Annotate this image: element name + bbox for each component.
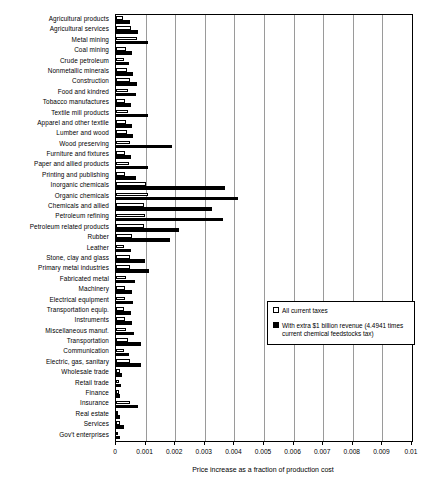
bar-dark	[116, 186, 225, 190]
bar-dark	[116, 249, 131, 253]
x-tick-label: 0.007	[314, 448, 331, 455]
x-tick-mark	[322, 441, 323, 445]
bar-group	[116, 410, 412, 420]
bar-group	[116, 160, 412, 170]
bar-group	[116, 212, 412, 222]
bar-dark	[116, 269, 149, 273]
bar-group	[116, 233, 412, 243]
x-axis-title: Price increase as a fraction of producti…	[115, 466, 411, 473]
bar-group	[116, 140, 412, 150]
category-label: Wholesale trade	[0, 367, 112, 377]
bar-dark	[116, 114, 148, 118]
bar-dark	[116, 363, 141, 367]
bar-group	[116, 275, 412, 285]
bar-dark	[116, 207, 212, 211]
x-tick-label: 0.005	[255, 448, 272, 455]
category-label: Tobacco manufactures	[0, 97, 112, 107]
category-label: Wood preserving	[0, 139, 112, 149]
x-tick-mark	[263, 441, 264, 445]
bar-group	[116, 244, 412, 254]
bar-dark	[116, 103, 131, 107]
category-label: Construction	[0, 76, 112, 86]
legend-label: All current taxes	[282, 307, 409, 316]
category-label: Furniture and fixtures	[0, 149, 112, 159]
category-label: Agricultural services	[0, 24, 112, 34]
bar-dark	[116, 82, 137, 86]
category-label: Coal mining	[0, 45, 112, 55]
bar-group	[116, 202, 412, 212]
category-label: Metal mining	[0, 35, 112, 45]
bar-dark	[116, 353, 129, 357]
bar-dark	[116, 238, 170, 242]
category-label: Instruments	[0, 315, 112, 325]
bar-dark	[116, 405, 138, 409]
x-tick-label: 0.003	[196, 448, 213, 455]
category-label: Retail trade	[0, 378, 112, 388]
bar-dark	[116, 301, 133, 305]
bar-group	[116, 399, 412, 409]
category-label: Petroleum related products	[0, 222, 112, 232]
category-label: Transportation equip.	[0, 305, 112, 315]
x-tick-label: 0.002	[166, 448, 183, 455]
x-tick-mark	[204, 441, 205, 445]
category-label: Agricultural products	[0, 14, 112, 24]
category-label: Leather	[0, 243, 112, 253]
category-label: Organic chemicals	[0, 191, 112, 201]
x-tick-mark	[381, 441, 382, 445]
bar-group	[116, 431, 412, 441]
legend-entry: All current taxes	[273, 307, 409, 316]
bar-group	[116, 358, 412, 368]
category-label: Crude petroleum	[0, 56, 112, 66]
bar-group	[116, 15, 412, 25]
bar-dark	[116, 41, 148, 45]
category-label: Electric, gas, sanitary	[0, 357, 112, 367]
bar-group	[116, 285, 412, 295]
bar-group	[116, 171, 412, 181]
x-tick-mark	[174, 441, 175, 445]
bar-dark	[116, 72, 133, 76]
bar-dark	[116, 62, 129, 66]
bar-group	[116, 223, 412, 233]
category-label: Food and kindred	[0, 87, 112, 97]
bar-group	[116, 379, 412, 389]
legend-swatch-light	[273, 307, 279, 313]
bar-dark	[116, 425, 124, 429]
bar-dark	[116, 384, 121, 388]
category-label: Services	[0, 419, 112, 429]
bar-group	[116, 46, 412, 56]
bar-dark	[116, 321, 132, 325]
x-tick-label: 0.001	[136, 448, 153, 455]
legend-entry: With extra $1 billion revenue (4.4941 ti…	[273, 322, 409, 339]
category-label: Communication	[0, 347, 112, 357]
bar-dark	[116, 145, 172, 149]
bar-dark	[116, 290, 132, 294]
bar-dark	[116, 436, 120, 440]
chart-legend: All current taxesWith extra $1 billion r…	[267, 301, 415, 345]
category-label: Lumber and wood	[0, 128, 112, 138]
bar-group	[116, 98, 412, 108]
bar-dark	[116, 280, 135, 284]
bar-dark	[116, 311, 131, 315]
bar-group	[116, 181, 412, 191]
bar-group	[116, 36, 412, 46]
bar-group	[116, 389, 412, 399]
x-tick-mark	[233, 441, 234, 445]
x-tick-mark	[115, 441, 116, 445]
category-label: Chemicals and allied	[0, 201, 112, 211]
bar-group	[116, 150, 412, 160]
bar-dark	[116, 155, 131, 159]
bar-dark	[116, 166, 148, 170]
category-label: Electrical equipment	[0, 295, 112, 305]
bars-layer	[116, 15, 412, 441]
x-tick-label: 0.01	[405, 448, 418, 455]
bar-dark	[116, 394, 120, 398]
category-label: Insurance	[0, 398, 112, 408]
bar-dark	[116, 30, 138, 34]
category-label: Primary metal industries	[0, 263, 112, 273]
x-tick-label: 0	[113, 448, 117, 455]
bar-group	[116, 67, 412, 77]
x-tick-label: 0.009	[373, 448, 390, 455]
bar-dark	[116, 415, 120, 419]
bar-dark	[116, 218, 223, 222]
category-label: Gov't enterprises	[0, 430, 112, 440]
